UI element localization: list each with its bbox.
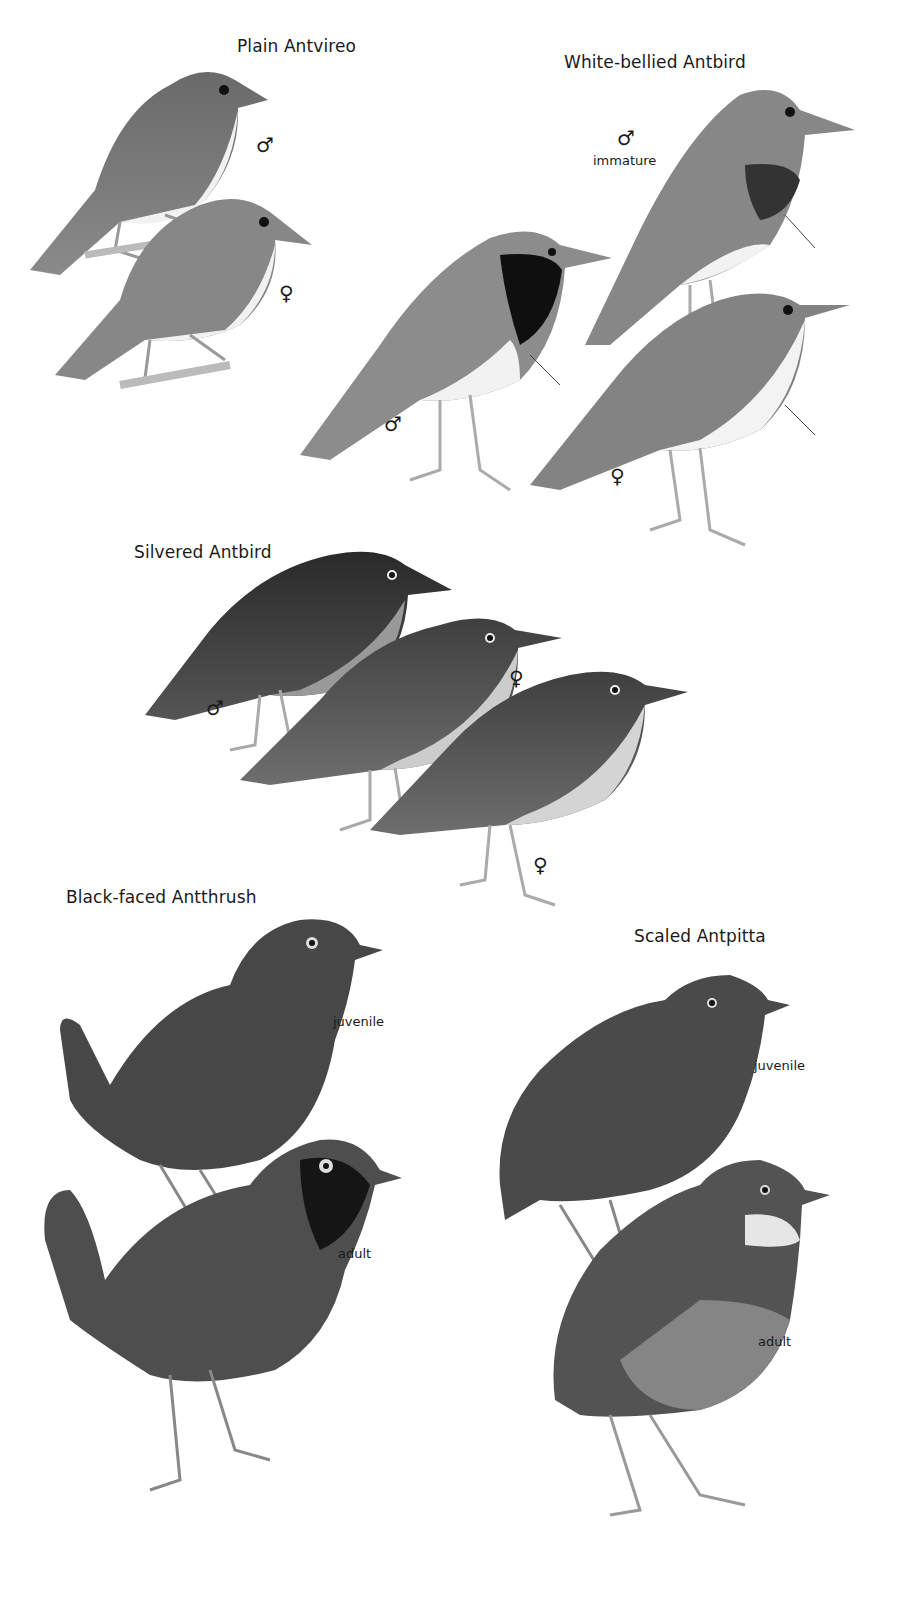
age-label-adult: adult — [338, 1246, 371, 1261]
male-symbol-icon: ♂ — [256, 135, 274, 155]
female-symbol-icon: ♀ — [509, 668, 524, 688]
species-title-silvered-antbird: Silvered Antbird — [134, 542, 272, 562]
species-title-scaled-antpitta: Scaled Antpitta — [634, 926, 766, 946]
female-symbol-icon: ♀ — [279, 283, 294, 303]
species-title-plain-antvireo: Plain Antvireo — [237, 36, 356, 56]
male-symbol-icon: ♂ — [617, 128, 635, 148]
age-label-immature: immature — [593, 153, 656, 168]
species-title-white-bellied-antbird: White-bellied Antbird — [564, 52, 746, 72]
illustration-plate: Plain Antvireo ♂ ♀ White-bellied Antbird… — [0, 0, 902, 1624]
male-symbol-icon: ♂ — [206, 698, 224, 718]
bird-black-faced-antthrush-adult — [44, 1139, 402, 1490]
bird-white-bellied-antbird-female — [530, 294, 850, 545]
female-symbol-icon: ♀ — [610, 466, 625, 486]
male-symbol-icon: ♂ — [384, 414, 402, 434]
age-label-juvenile: juvenile — [754, 1058, 805, 1073]
age-label-adult: adult — [758, 1334, 791, 1349]
bird-illustrations — [0, 0, 902, 1624]
female-symbol-icon: ♀ — [533, 855, 548, 875]
age-label-juvenile: juvenile — [333, 1014, 384, 1029]
species-title-black-faced-antthrush: Black-faced Antthrush — [66, 887, 257, 907]
